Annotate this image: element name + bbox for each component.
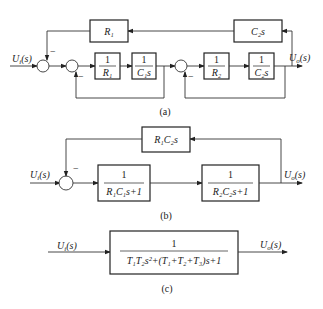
input-label-a: Ui(s) (12, 53, 32, 66)
block-numerator: 1 (214, 54, 219, 65)
input-label-c: Ui(s) (57, 240, 77, 253)
minus-sign: − (50, 46, 56, 57)
block-label: R₁C₂s (153, 134, 178, 145)
caption-a: (a) (159, 106, 170, 118)
diagram-c: Ui(s) 1 T₁T₂s²+(T₁+T₂+T₃)s+1 Uo(s) (c) (48, 231, 287, 295)
block-diagram-canvas: Ui(s) − − 1 R₁ 1 C₁s − 1 R₂ 1 (0, 0, 323, 309)
block-denominator: R₂ (211, 67, 222, 78)
block-numerator: 1 (228, 169, 233, 180)
summing-junction-1 (37, 60, 49, 72)
diagram-a: Ui(s) − − 1 R₁ 1 C₁s − 1 R₂ 1 (10, 20, 311, 118)
block-denominator: C₁s (137, 67, 151, 78)
block-denominator: R₁ (102, 67, 113, 78)
block-numerator: 1 (172, 238, 177, 249)
minus-sign: − (78, 71, 84, 82)
block-denominator: R₁C₁s+1 (105, 186, 141, 197)
block-label: R₁ (103, 26, 114, 37)
summing-junction-3 (175, 60, 187, 72)
caption-c: (c) (161, 283, 172, 295)
block-numerator: 1 (122, 169, 127, 180)
diagram-b: Ui(s) − 1 R₁C₁s+1 1 R₂C₂s+1 Uo(s) R₁C₂s … (30, 127, 306, 222)
minus-sign: − (73, 163, 79, 174)
output-label-b: Uo(s) (284, 169, 306, 182)
block-label: C₂s (251, 26, 265, 37)
summing-junction-b (59, 176, 73, 190)
block-numerator: 1 (259, 54, 264, 65)
output-label-c: Uo(s) (260, 239, 282, 252)
block-numerator: 1 (105, 54, 110, 65)
minus-sign: − (188, 71, 194, 82)
input-label-b: Ui(s) (30, 169, 50, 182)
block-denominator: C₂s (254, 67, 268, 78)
block-denominator: R₂C₂s+1 (212, 186, 248, 197)
caption-b: (b) (160, 210, 172, 222)
block-denominator: T₁T₂s²+(T₁+T₂+T₃)s+1 (127, 255, 222, 267)
summing-junction-2 (66, 60, 78, 72)
block-numerator: 1 (142, 54, 147, 65)
